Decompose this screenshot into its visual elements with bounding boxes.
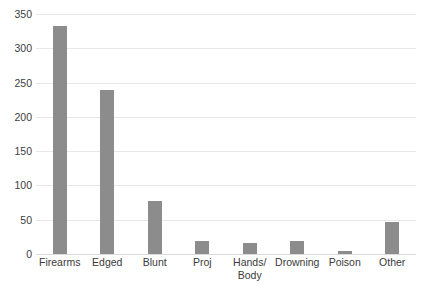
bar-slot-poison (321, 14, 369, 254)
bar-firearms[interactable] (53, 26, 67, 254)
x-tick-label-blunt: Blunt (131, 256, 179, 269)
x-tick-label-hands-body: Hands/ Body (226, 256, 274, 282)
bar-slot-hands-body (226, 14, 274, 254)
y-tick-label: 250 (2, 78, 32, 88)
bar-slot-blunt (131, 14, 179, 254)
y-tick-label: 100 (2, 180, 32, 190)
y-tick-label: 50 (2, 215, 32, 225)
bar-slot-drowning (274, 14, 322, 254)
bar-slot-firearms (36, 14, 84, 254)
bar-proj[interactable] (195, 241, 209, 254)
y-tick-label: 150 (2, 146, 32, 156)
y-tick-label: 350 (2, 9, 32, 19)
y-tick-label: 300 (2, 43, 32, 53)
bar-other[interactable] (385, 222, 399, 254)
bar-slot-other (369, 14, 417, 254)
bar-edged[interactable] (100, 90, 114, 254)
x-tick-label-drowning: Drowning (274, 256, 322, 269)
x-tick-label-edged: Edged (84, 256, 132, 269)
bar-slot-edged (84, 14, 132, 254)
bar-drowning[interactable] (290, 241, 304, 254)
x-tick-label-poison: Poison (321, 256, 369, 269)
bars-layer (36, 14, 416, 254)
bar-chart: 350 300 250 200 150 100 50 0 (0, 0, 427, 293)
x-tick-label-other: Other (369, 256, 417, 269)
x-tick-label-firearms: Firearms (36, 256, 84, 269)
axis-baseline (36, 254, 416, 255)
bar-hands-body[interactable] (243, 243, 257, 254)
x-tick-label-proj: Proj (179, 256, 227, 269)
bar-blunt[interactable] (148, 201, 162, 254)
y-tick-label: 0 (2, 249, 32, 259)
bar-slot-proj (179, 14, 227, 254)
y-tick-label: 200 (2, 112, 32, 122)
bar-poison[interactable] (338, 251, 352, 254)
x-axis: Firearms Edged Blunt Proj Hands/ Body Dr… (36, 256, 416, 292)
